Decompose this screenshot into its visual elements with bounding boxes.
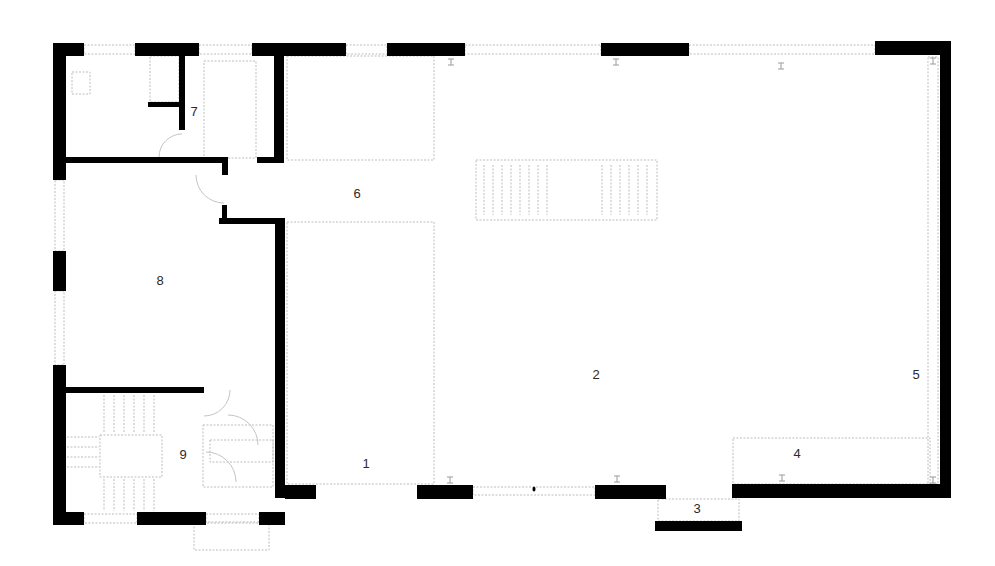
wall-segment [275, 218, 285, 498]
wall-segment [148, 102, 185, 107]
room-label-9: 9 [179, 447, 186, 462]
outline-element [928, 57, 938, 484]
door-swing-arc [206, 452, 236, 482]
outline-element [84, 45, 135, 54]
wall-segment [387, 43, 465, 56]
outline-element [199, 45, 252, 54]
door-handle-icon [533, 487, 536, 492]
wall-segment [179, 56, 185, 130]
outline-element [733, 438, 930, 484]
door-swing-arc [159, 134, 182, 157]
room-label-8: 8 [156, 273, 163, 288]
outline-element [194, 522, 269, 550]
column-markers-layer [447, 58, 936, 483]
wall-segment [732, 484, 951, 498]
wall-segment [137, 512, 206, 525]
wall-segment [417, 485, 473, 499]
column-icon [448, 59, 454, 65]
wall-segment [875, 41, 951, 55]
outline-element [287, 222, 434, 484]
wall-segment [285, 485, 316, 499]
stairs-layer [67, 165, 647, 511]
wall-segment [601, 43, 689, 56]
wall-segment [252, 43, 346, 56]
column-icon [614, 476, 620, 482]
wall-segment [53, 43, 66, 180]
door-swings-layer [159, 134, 258, 482]
column-icon [447, 477, 453, 483]
outline-element [210, 440, 273, 462]
door-swing-arc [204, 390, 230, 416]
outline-element [204, 61, 256, 158]
wall-segment [257, 157, 284, 163]
room-label-4: 4 [793, 446, 800, 461]
wall-segment [259, 512, 285, 525]
wall-segment [222, 157, 228, 175]
column-icon [613, 59, 619, 65]
wall-segment [66, 387, 204, 393]
wall-segment [135, 43, 199, 56]
outline-element [203, 425, 273, 487]
wall-segment [655, 521, 742, 531]
outline-element [84, 514, 137, 523]
wall-segment [940, 41, 951, 496]
column-icon [930, 477, 936, 483]
room-label-2: 2 [592, 367, 599, 382]
wall-segment [595, 485, 666, 499]
column-icon [779, 475, 785, 481]
room-label-5: 5 [912, 367, 919, 382]
floor-plan: 123456789 [0, 0, 995, 566]
column-icon [930, 58, 936, 64]
outline-element [72, 72, 90, 94]
wall-segment [274, 56, 284, 163]
outline-element [476, 160, 657, 220]
walls-layer [53, 41, 951, 531]
door-swing-arc [196, 175, 224, 203]
room-label-1: 1 [362, 456, 369, 471]
outline-element [346, 45, 387, 54]
outline-element [100, 435, 162, 477]
outline-element [287, 56, 434, 160]
room-label-7: 7 [190, 104, 197, 119]
wall-segment [53, 365, 66, 525]
fixtures-and-openings-layer [55, 45, 938, 550]
wall-segment [66, 157, 228, 163]
outline-element [689, 45, 875, 54]
outline-element [150, 56, 179, 102]
room-label-3: 3 [693, 501, 700, 516]
outline-element [465, 45, 601, 54]
outline-element [55, 291, 64, 365]
outline-element [55, 180, 64, 251]
wall-segment [53, 512, 84, 525]
room-label-6: 6 [353, 186, 360, 201]
wall-segment [53, 251, 66, 291]
column-icon [778, 63, 784, 69]
